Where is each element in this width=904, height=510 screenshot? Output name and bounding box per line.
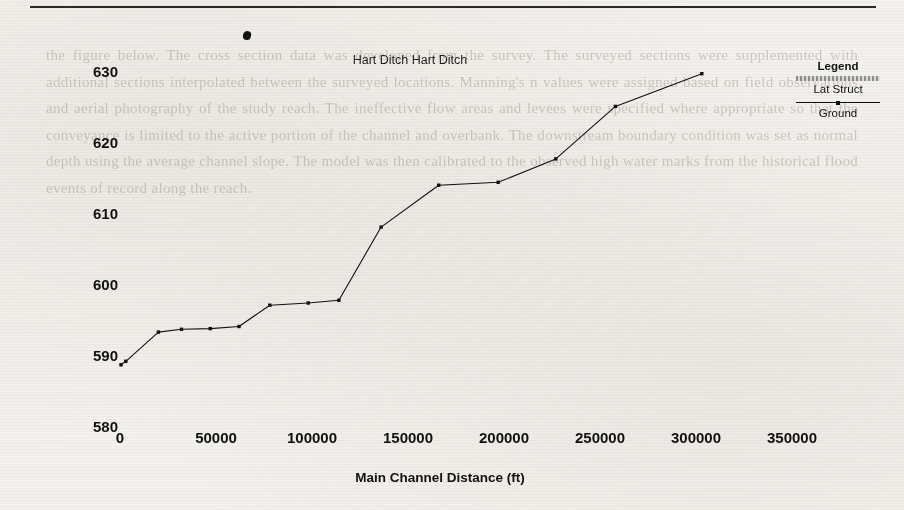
legend-ground-marker: [836, 101, 840, 105]
data-point-marker: [379, 225, 382, 228]
data-point-marker: [337, 299, 340, 302]
legend-swatch-ground: [796, 99, 880, 106]
data-point-marker: [307, 301, 310, 304]
data-point-marker: [157, 330, 160, 333]
legend-title: Legend: [790, 60, 886, 72]
legend-label-lat-struct: Lat Struct: [790, 82, 886, 96]
data-point-marker: [209, 327, 212, 330]
data-point-marker: [437, 184, 440, 187]
plot-area: [0, 0, 904, 510]
data-point-marker: [554, 157, 557, 160]
data-point-marker: [614, 105, 617, 108]
data-point-marker: [700, 72, 703, 75]
series-ground-line: [121, 74, 702, 365]
legend-swatch-lat-struct: [796, 76, 880, 81]
data-point-marker: [119, 363, 122, 366]
legend: Legend Lat Struct Ground: [790, 60, 886, 120]
data-point-marker: [237, 325, 240, 328]
legend-label-ground: Ground: [790, 106, 886, 120]
data-point-marker: [268, 304, 271, 307]
data-point-marker: [180, 328, 183, 331]
chart-figure: Hart Ditch Hart Ditch Elevation (ft) Mai…: [0, 0, 904, 510]
data-point-marker: [497, 181, 500, 184]
series-ground-markers: [119, 72, 703, 367]
data-point-marker: [124, 360, 127, 363]
